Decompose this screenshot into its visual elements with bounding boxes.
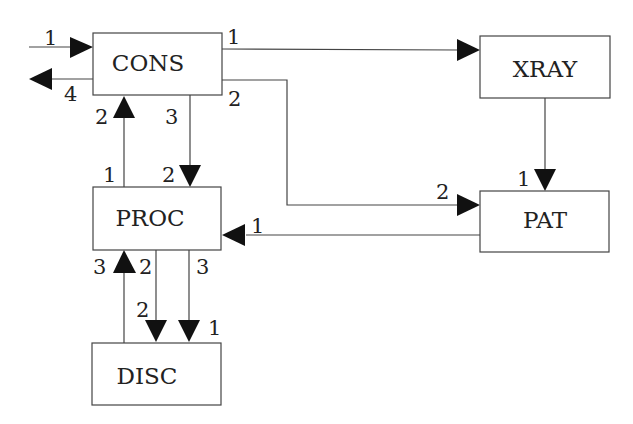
- arrowhead-up-icon: [113, 250, 136, 273]
- port-label: 2: [95, 105, 108, 129]
- port-label: 2: [162, 163, 175, 187]
- arrowhead-down-icon: [178, 320, 200, 342]
- arrowhead-down-icon: [145, 320, 167, 342]
- arrowhead-right-icon: [457, 39, 480, 61]
- port-label: 1: [208, 316, 221, 340]
- process-diagram: CONS XRAY PAT PROC DISC 1 4 1 2 3 2 1 2 …: [0, 0, 633, 424]
- edge-cons-to-pat: [222, 80, 458, 205]
- arrowhead-down-icon: [179, 165, 201, 187]
- arrowhead-right-icon: [457, 194, 480, 216]
- arrowhead-right-icon: [70, 37, 93, 58]
- node-proc: PROC: [93, 187, 221, 250]
- arrowhead-up-icon: [113, 96, 135, 118]
- port-label: 1: [227, 25, 240, 49]
- node-xray-label: XRAY: [513, 56, 578, 82]
- arrowhead-left-icon: [29, 68, 52, 90]
- node-pat-label: PAT: [523, 207, 568, 233]
- node-cons-label: CONS: [112, 50, 184, 76]
- node-disc: DISC: [92, 343, 221, 405]
- port-label: 1: [251, 214, 264, 238]
- port-label: 2: [136, 298, 149, 322]
- port-label: 1: [517, 167, 530, 191]
- port-label: 2: [436, 180, 449, 204]
- port-label: 2: [139, 255, 152, 279]
- node-disc-label: DISC: [117, 363, 178, 389]
- node-xray: XRAY: [480, 36, 610, 98]
- port-label: 3: [93, 255, 106, 279]
- port-label: 2: [228, 87, 241, 111]
- port-label: 4: [64, 82, 77, 106]
- arrowhead-down-icon: [534, 169, 556, 191]
- port-label: 1: [103, 163, 116, 187]
- arrowhead-left-icon: [222, 224, 245, 246]
- node-proc-label: PROC: [115, 205, 184, 231]
- node-pat: PAT: [480, 191, 609, 252]
- port-label: 3: [165, 105, 178, 129]
- port-label: 1: [44, 26, 57, 50]
- node-cons: CONS: [93, 33, 222, 95]
- edge-cons-to-xray: [222, 49, 458, 50]
- port-label: 3: [196, 255, 209, 279]
